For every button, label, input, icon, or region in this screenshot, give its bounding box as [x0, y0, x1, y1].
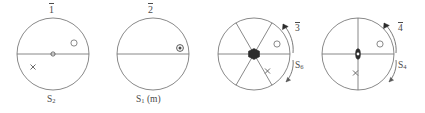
panel-1-bottom-label: S2	[47, 95, 56, 105]
panel-3-marker-open-circle	[274, 41, 280, 47]
panel-4bar-S4: 4 S4	[310, 0, 416, 113]
panel-2-bottom-label: S1 (m)	[136, 95, 161, 105]
panel-3-rotation-arrow-lower	[286, 60, 293, 82]
panel-3-center-symbol-filled-hexagon	[249, 49, 260, 60]
panel-3-axis-label-text: 3	[295, 22, 300, 34]
panel-1-marker-open-circle	[71, 40, 77, 46]
panel-4-marker-open-circle	[377, 41, 383, 47]
panel-2bar-S1m: 2 S1 (m)	[100, 0, 206, 113]
panel-3-marker-cross	[265, 69, 270, 74]
panel-3-axis-label: 3	[295, 22, 300, 34]
crystallographic-figure: 1 S2 2 S1 (m)	[0, 0, 425, 113]
panel-4-axis-label-text: 4	[398, 22, 403, 34]
panel-4-center-symbol-filled-lens	[356, 49, 361, 59]
panel-1bar-S2: 1 S2	[0, 0, 106, 113]
panel-1-bottom-label-sub: 2	[52, 97, 55, 104]
panel-3bar-S6: 3 S6	[206, 0, 312, 113]
panel-3-diagram	[206, 0, 312, 113]
panel-4-marker-cross	[353, 71, 358, 76]
panel-3-schoenflies-label: S6	[295, 61, 304, 71]
panel-4-schoenflies-label: S4	[398, 61, 407, 71]
panel-4-schoenflies-label-sub: 4	[403, 63, 406, 70]
panel-3-rotation-arrow-upper	[283, 24, 294, 53]
panel-4-diagram	[310, 0, 416, 113]
panel-3-schoenflies-label-sub: 6	[300, 63, 303, 70]
panel-4-axis-label: 4	[398, 22, 403, 34]
panel-2-bottom-label-suffix: (m)	[145, 94, 161, 104]
panel-1-marker-cross	[31, 65, 36, 70]
panel-2-marker-circled-dot	[177, 45, 184, 52]
